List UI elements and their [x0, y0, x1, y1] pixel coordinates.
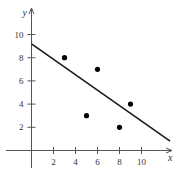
axes — [6, 8, 172, 168]
x-tick-label: 8 — [117, 157, 122, 167]
data-point — [84, 113, 89, 118]
data-point — [62, 55, 67, 60]
ticks: 246810246810 — [15, 30, 147, 167]
data-point — [128, 102, 133, 107]
x-axis-label: x — [167, 152, 173, 163]
data-point — [95, 67, 100, 72]
y-tick-label: 8 — [19, 53, 24, 63]
data-points — [62, 55, 133, 130]
y-tick-label: 2 — [19, 122, 24, 132]
y-tick-label: 10 — [15, 30, 25, 40]
y-axis-label: y — [22, 7, 28, 18]
y-tick-label: 6 — [19, 76, 24, 86]
x-tick-label: 10 — [137, 157, 147, 167]
data-point — [117, 125, 122, 130]
y-tick-label: 4 — [19, 99, 24, 109]
fit-line-segment — [32, 44, 171, 141]
scatter-chart: 246810246810 x y — [0, 0, 182, 178]
x-tick-label: 6 — [95, 157, 100, 167]
x-tick-label: 4 — [73, 157, 78, 167]
x-tick-label: 2 — [51, 157, 56, 167]
fit-line — [32, 44, 171, 141]
